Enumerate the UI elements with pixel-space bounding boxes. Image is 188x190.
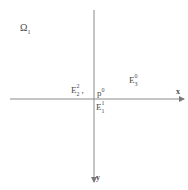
label-e2-2: E22, [71,86,84,95]
label-e0-3: E03 [129,76,140,85]
label-e0-3-sup: 0 [135,73,138,79]
y-axis-label: y [96,173,100,182]
label-e2-2-sup: 2 [77,83,80,89]
label-e1-1-sup: 1 [102,100,105,106]
label-p0-sup: 0 [102,87,105,93]
diagram-canvas: Ω1 E22, p0 E11 E03 x y [0,0,188,190]
label-p0: p0 [97,89,105,98]
label-e1-1-sub: 1 [102,108,105,114]
label-e2-2-suffix: , [82,85,84,95]
label-e2-2-sub: 2 [77,91,80,97]
x-axis-label: x [176,87,180,96]
region-label-omega: Ω1 [20,23,30,32]
label-e0-3-sub: 3 [135,81,138,87]
label-e1-1: E11 [96,103,107,112]
label-p0-base: p [97,88,102,98]
omega-subscript: 1 [27,29,30,35]
